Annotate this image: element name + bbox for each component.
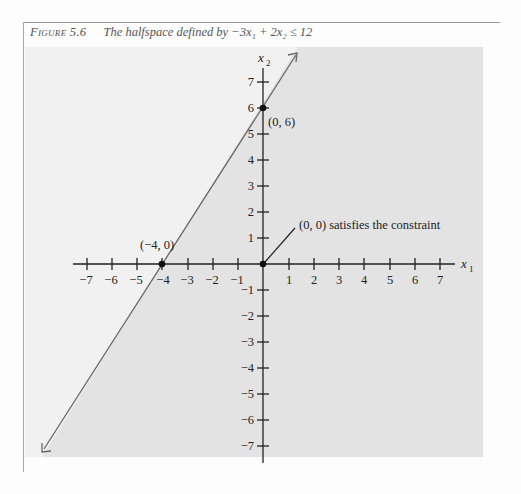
y-tick-label: 4 <box>248 153 255 167</box>
y-tick-label: −1 <box>241 283 254 297</box>
x-tick-label: 7 <box>437 273 443 287</box>
y-tick-label: 5 <box>248 127 254 141</box>
annotation-origin: (0, 0) satisfies the constraint <box>299 218 441 232</box>
y-tick-label: −5 <box>241 387 254 401</box>
y-tick-label: 2 <box>248 205 254 219</box>
y-tick-label: −3 <box>241 335 254 349</box>
svg-text:x: x <box>460 256 467 271</box>
x-tick-label: −7 <box>79 273 92 287</box>
y-tick-label: −2 <box>241 309 254 323</box>
y-tick-label: 7 <box>248 75 254 89</box>
y-tick-label: 3 <box>248 179 254 193</box>
x-tick-label: −3 <box>180 273 193 287</box>
x-tick-label: −4 <box>156 273 170 287</box>
point-label-0-6: (0, 6) <box>268 115 295 129</box>
x-tick-label: 5 <box>387 273 393 287</box>
x-tick-label: −6 <box>104 273 117 287</box>
halfspace-chart: −7 −6 −5 −4 −3 −2 −1 1 2 3 4 5 6 7 1 2 3… <box>0 0 521 494</box>
x-tick-label: 6 <box>412 273 418 287</box>
point-0-6 <box>260 105 267 112</box>
y-tick-label: 1 <box>248 231 254 245</box>
y-tick-label: −4 <box>241 361 255 375</box>
point-label-neg4-0: (−4, 0) <box>140 238 174 252</box>
x-tick-label: 1 <box>286 273 292 287</box>
x-tick-label: 4 <box>361 273 368 287</box>
y-tick-label: −7 <box>241 439 254 453</box>
x-tick-label: 3 <box>336 273 342 287</box>
x-tick-label: −2 <box>205 273 218 287</box>
x-tick-label: −5 <box>129 273 142 287</box>
y-tick-label: 6 <box>248 101 254 115</box>
svg-text:2: 2 <box>266 58 271 68</box>
svg-text:x: x <box>257 50 264 65</box>
x-tick-label: 2 <box>311 273 317 287</box>
svg-text:1: 1 <box>469 264 474 274</box>
point-neg4-0 <box>159 261 166 268</box>
y-tick-label: −6 <box>241 413 254 427</box>
